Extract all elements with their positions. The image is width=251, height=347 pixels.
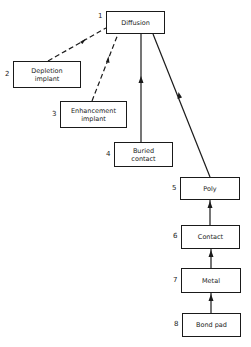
node-label: Depletion (31, 67, 62, 75)
node-number: 2 (5, 70, 9, 78)
edge-enhancement-to-diffusion (92, 34, 118, 101)
node-label: contact (131, 155, 155, 163)
node-number: 3 (52, 110, 56, 118)
arrowhead-icon (208, 201, 213, 208)
node-label: Poly (203, 185, 216, 193)
node-label: implant (35, 75, 60, 83)
arrowhead-icon (139, 76, 144, 83)
node-label: Bond pad (196, 321, 227, 329)
edge-depletion-to-diffusion (48, 28, 106, 61)
node-depletion-implant: Depletion implant (13, 61, 81, 88)
node-bond-pad: Bond pad (182, 313, 241, 337)
node-label: Diffusion (121, 19, 150, 27)
node-number: 6 (173, 232, 177, 240)
node-number: 5 (172, 184, 176, 192)
node-label: Enhancement (71, 107, 116, 115)
connector-lines (0, 0, 251, 347)
node-buried-contact: Buried contact (114, 142, 173, 167)
arrowhead-icon (209, 250, 214, 257)
node-label: Contact (198, 233, 223, 241)
arrowhead-icon (209, 294, 214, 301)
node-number: 7 (173, 276, 177, 284)
node-number: 1 (98, 12, 102, 20)
node-label: Metal (202, 277, 220, 285)
node-metal: Metal (181, 268, 241, 293)
node-label: Buried (133, 147, 154, 155)
node-contact: Contact (181, 225, 240, 249)
node-number: 4 (106, 150, 110, 158)
node-diffusion: Diffusion (106, 11, 165, 34)
arrowhead-icon (80, 39, 86, 44)
node-poly: Poly (180, 177, 240, 200)
node-enhancement-implant: Enhancement implant (60, 101, 127, 128)
arrowhead-icon (106, 56, 110, 63)
arrowhead-icon (178, 92, 183, 99)
node-label: implant (81, 115, 106, 123)
node-number: 8 (174, 320, 178, 328)
